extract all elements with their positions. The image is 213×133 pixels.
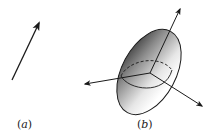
vector-arrow — [12, 23, 39, 80]
panel-b: (b) — [85, 9, 202, 131]
panel-a: (a) — [12, 23, 39, 131]
panel-a-label: (a) — [17, 118, 32, 131]
figure-canvas: (a) (b) — [0, 0, 213, 133]
panel-b-label: (b) — [137, 118, 153, 131]
ellipsoid-body — [104, 19, 195, 126]
